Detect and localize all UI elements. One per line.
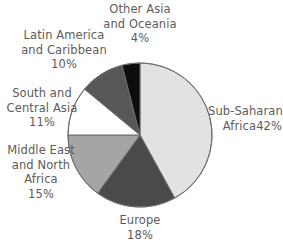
pie-label-middle-east-line2: and North xyxy=(2,158,80,173)
pie-label-sub-saharan-line1: Sub-Saharan xyxy=(208,104,282,119)
pie-label-sub-saharan-value: Africa42% xyxy=(208,119,282,134)
pie-label-south-central-value: 11% xyxy=(2,115,82,130)
pie-slice-group xyxy=(68,63,212,207)
pie-label-latin-america-line2: and Caribbean xyxy=(8,43,120,58)
pie-label-latin-america-and-caribbean: Latin America and Caribbean 10% xyxy=(8,28,120,72)
pie-label-south-central-line1: South and xyxy=(2,86,82,101)
pie-label-latin-america-value: 10% xyxy=(8,57,120,72)
pie-label-sub-saharan-africa: Sub-Saharan Africa42% xyxy=(208,104,282,133)
pie-chart-figure: Other Asia and Oceania 4% Latin America … xyxy=(0,0,283,251)
pie-label-south-central-line2: Central Asia xyxy=(2,101,82,116)
pie-label-middle-east-line1: Middle East xyxy=(2,143,80,158)
pie-label-europe-value: 18% xyxy=(98,228,182,243)
pie-label-middle-east-line3: Africa xyxy=(2,172,80,187)
pie-label-latin-america-line1: Latin America xyxy=(8,28,120,43)
pie-label-middle-east-value: 15% xyxy=(2,187,80,202)
pie-label-europe: Europe 18% xyxy=(98,213,182,242)
pie-label-other-asia-line1: Other Asia xyxy=(88,2,192,17)
pie-label-south-and-central-asia: South and Central Asia 11% xyxy=(2,86,82,130)
pie-label-middle-east-and-north-africa: Middle East and North Africa 15% xyxy=(2,143,80,201)
pie-label-europe-line1: Europe xyxy=(98,213,182,228)
